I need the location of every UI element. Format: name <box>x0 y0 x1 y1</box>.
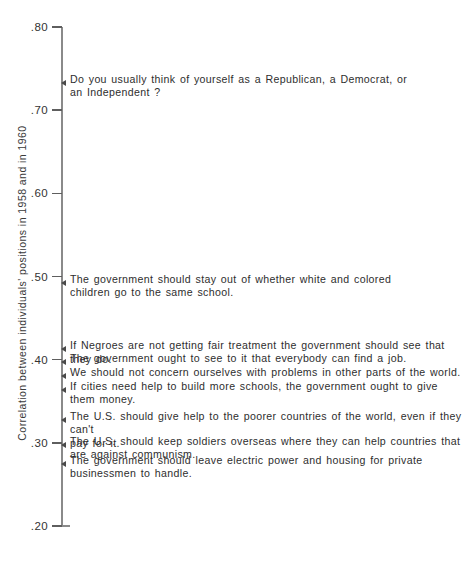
y-axis-tick-label: .70 <box>0 104 48 116</box>
item-label: We should not concern ourselves with pro… <box>70 366 460 379</box>
left-arrow-icon <box>61 371 70 380</box>
left-arrow-icon <box>61 440 70 449</box>
item-annotation: The government should stay out of whethe… <box>63 277 391 304</box>
y-axis-tick-mark <box>52 109 62 111</box>
correlation-figure: Correlation between individuals' positio… <box>0 0 467 566</box>
y-axis-label-container: Correlation between individuals' positio… <box>10 0 34 566</box>
item-annotation: The government should leave electric pow… <box>63 458 422 485</box>
left-arrow-icon <box>61 278 70 287</box>
item-label: Do you usually think of yourself as a Re… <box>70 73 407 100</box>
left-arrow-icon <box>61 357 70 366</box>
left-arrow-icon <box>61 459 70 468</box>
item-label: If cities need help to build more school… <box>70 380 467 407</box>
item-annotation: Do you usually think of yourself as a Re… <box>63 77 407 104</box>
y-axis-tick-label: .80 <box>0 21 48 33</box>
item-annotation: If cities need help to build more school… <box>63 384 467 411</box>
left-arrow-icon <box>61 344 70 353</box>
y-axis-tick-label: .50 <box>0 271 48 283</box>
y-axis-tick-mark <box>52 525 62 527</box>
y-axis-tick-label: .20 <box>0 520 48 532</box>
y-axis-tick-label: .30 <box>0 437 48 449</box>
y-axis-tick-mark <box>52 193 62 195</box>
y-axis-label: Correlation between individuals' positio… <box>10 0 34 566</box>
y-axis-tick-mark <box>52 26 62 28</box>
left-arrow-icon <box>61 385 70 394</box>
y-axis-tick-label: .40 <box>0 354 48 366</box>
item-label: The government ought to see to it that e… <box>70 352 407 365</box>
left-arrow-icon <box>61 415 70 424</box>
y-axis-tick-label: .60 <box>0 187 48 199</box>
item-label: The government should leave electric pow… <box>70 454 422 481</box>
y-axis-foot <box>61 525 70 527</box>
item-label: The government should stay out of whethe… <box>70 273 391 300</box>
left-arrow-icon <box>61 78 70 87</box>
